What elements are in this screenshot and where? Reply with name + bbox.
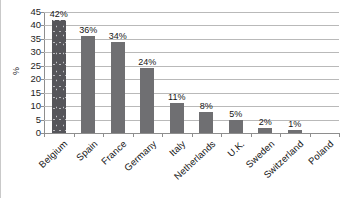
bar-slot: 34% [103,12,133,133]
x-axis-tick-mark [133,133,134,137]
x-axis-tick-mark [310,133,311,137]
bar-slot: 2% [251,12,281,133]
y-axis-tick-label: 0 [21,129,41,137]
bar-value-label: 2% [259,117,272,127]
x-axis-tick-mark [280,133,281,137]
bar [111,42,125,133]
y-axis-tick-label: 30 [21,48,41,56]
bar-value-label: 8% [200,101,213,111]
bar [170,103,184,133]
bar-slot: 5% [221,12,251,133]
bar-slot: 36% [74,12,104,133]
bar [229,120,243,133]
x-axis-category-labels: BelgiumSpainFranceGermanyItalyNetherland… [44,138,340,198]
plot-area: 42%36%34%24%11%8%5%2%1% [44,12,339,133]
y-axis-tick-label: 40 [21,21,41,29]
x-axis-tick-mark [192,133,193,137]
bar-value-label: 42% [50,9,68,19]
y-axis-tick-label: 5 [21,116,41,124]
x-axis-tick-mark [162,133,163,137]
y-axis-tick-label: 20 [21,75,41,83]
y-axis-tick-label: 15 [21,89,41,97]
bar-chart: % 454035302520151050 42%36%34%24%11%8%5%… [0,0,341,198]
x-axis-tick-mark [251,133,252,137]
x-axis-tick-mark [221,133,222,137]
bar-value-label: 5% [229,109,242,119]
bar-value-label: 34% [109,31,127,41]
bar [52,20,66,133]
bar-series: 42%36%34%24%11%8%5%2%1% [44,12,339,133]
x-axis-tick-mark [44,133,45,137]
bar-value-label: 11% [168,92,185,102]
bar [199,112,213,134]
y-axis-tick-label: 10 [21,102,41,110]
x-axis-tick-mark [103,133,104,137]
x-axis-tick-mark [74,133,75,137]
bar-value-label: 1% [288,119,301,129]
bar-value-label: 24% [138,57,156,67]
bar-slot: 11% [162,12,192,133]
bar-slot [310,12,340,133]
y-axis-tick-label: 25 [21,62,41,70]
x-axis-tick-mark [339,133,340,137]
bar-slot: 24% [133,12,163,133]
bar [140,68,154,133]
y-axis-tick-labels: 454035302520151050 [21,12,41,133]
bar [81,36,95,133]
bar-slot: 8% [192,12,222,133]
y-axis-tick-label: 45 [21,8,41,16]
bar-value-label: 36% [79,25,97,35]
bar-slot: 1% [280,12,310,133]
bar-slot: 42% [44,12,74,133]
y-axis-tick-label: 35 [21,35,41,43]
